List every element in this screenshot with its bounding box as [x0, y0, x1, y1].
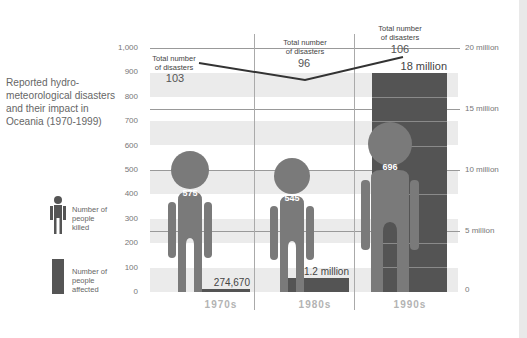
- disasters-value-1970s: 103: [155, 72, 195, 84]
- disasters-value-1990s: 106: [380, 43, 420, 55]
- legend-label-affected: Number of people affected: [72, 267, 112, 294]
- affected-swatch: [52, 259, 64, 294]
- category-label-1970s: 1970s: [181, 299, 261, 310]
- category-label-1980s: 1980s: [275, 299, 355, 310]
- disasters-label-1990s: Total number of disasters: [378, 24, 422, 42]
- disasters-label-1970s: Total number of disasters: [152, 54, 196, 72]
- category-label-1990s: 1990s: [370, 299, 450, 310]
- disasters-label-1980s: Total number of disasters: [283, 38, 327, 56]
- disasters-value-1980s: 96: [284, 57, 324, 69]
- person-icon: [50, 196, 66, 234]
- scrollbar[interactable]: [519, 0, 527, 338]
- legend-label-killed: Number of people killed: [72, 205, 112, 232]
